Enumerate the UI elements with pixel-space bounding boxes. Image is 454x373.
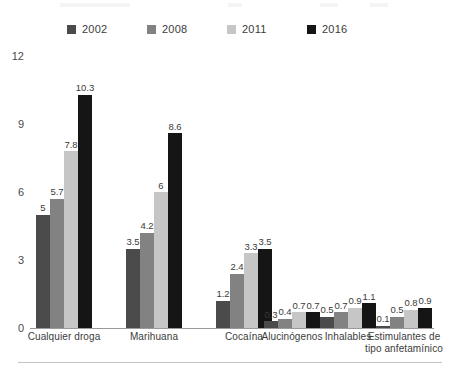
bar-2002[interactable]: 1.2 bbox=[216, 301, 230, 328]
scan-artifact bbox=[320, 3, 338, 7]
bar-value-label: 0.8 bbox=[404, 298, 417, 308]
bar-value-label: 6 bbox=[158, 181, 163, 191]
bar-2011[interactable]: 0.8 bbox=[404, 310, 418, 328]
bar-value-label: 0.5 bbox=[390, 305, 403, 315]
bar-value-label: 0.7 bbox=[306, 301, 319, 311]
legend-item-2011[interactable]: 2011 bbox=[227, 24, 307, 35]
legend-item-2016[interactable]: 2016 bbox=[307, 24, 387, 35]
bar-value-label: 10.3 bbox=[76, 83, 95, 93]
legend-item-label: 2016 bbox=[322, 24, 347, 35]
legend-swatch-icon bbox=[227, 25, 236, 34]
legend-item-2002[interactable]: 2002 bbox=[67, 24, 147, 35]
bar-value-label: 1.1 bbox=[362, 292, 375, 302]
bar-group-4: 0.30.40.70.7 bbox=[264, 56, 320, 328]
bar-2002[interactable]: 0.3 bbox=[264, 321, 278, 328]
bar-2002[interactable]: 5 bbox=[36, 215, 50, 328]
scan-artifact bbox=[60, 3, 130, 7]
category-label-line: Estimulantes de bbox=[323, 331, 454, 343]
bar-2016[interactable]: 0.7 bbox=[306, 312, 320, 328]
y-axis: 129630 bbox=[0, 50, 28, 335]
bar-value-label: 3.5 bbox=[126, 237, 139, 247]
bar-2008[interactable]: 5.7 bbox=[50, 199, 64, 328]
bar-value-label: 0.1 bbox=[376, 314, 389, 324]
bars-layer: 55.77.810.33.54.268.61.22.43.33.50.30.40… bbox=[30, 56, 440, 328]
legend-swatch-icon bbox=[67, 25, 76, 34]
legend-item-label: 2008 bbox=[162, 24, 187, 35]
bar-value-label: 0.7 bbox=[292, 301, 305, 311]
scan-artifact bbox=[370, 3, 388, 7]
bar-2011[interactable]: 0.9 bbox=[348, 308, 362, 328]
bar-value-label: 7.8 bbox=[64, 140, 77, 150]
bar-2008[interactable]: 2.4 bbox=[230, 274, 244, 328]
bar-2016[interactable]: 8.6 bbox=[168, 133, 182, 328]
bar-2011[interactable]: 6 bbox=[154, 192, 168, 328]
category-label-2: Marihuana bbox=[109, 331, 199, 343]
legend-item-label: 2011 bbox=[242, 24, 266, 35]
bar-2008[interactable]: 4.2 bbox=[140, 233, 154, 328]
y-tick-label: 12 bbox=[12, 51, 24, 62]
legend-item-2008[interactable]: 2008 bbox=[147, 24, 227, 35]
footer-rule bbox=[18, 362, 442, 363]
category-label-line: Cualquier droga bbox=[19, 331, 109, 343]
bar-2016[interactable]: 0.9 bbox=[418, 308, 432, 328]
category-label-1: Cualquier droga bbox=[19, 331, 109, 343]
bar-value-label: 3.3 bbox=[244, 242, 257, 252]
bar-value-label: 5 bbox=[40, 203, 45, 213]
y-tick-label: 6 bbox=[18, 187, 24, 198]
scan-artifact bbox=[228, 3, 242, 7]
bar-value-label: 0.9 bbox=[348, 296, 361, 306]
category-label-line: Marihuana bbox=[109, 331, 199, 343]
bar-2008[interactable]: 0.4 bbox=[278, 319, 292, 328]
x-axis-category-labels: Cualquier drogaMarihuanaCocaínaAlucinóge… bbox=[30, 331, 440, 365]
bar-value-label: 4.2 bbox=[140, 221, 153, 231]
bar-2016[interactable]: 1.1 bbox=[362, 303, 376, 328]
bar-2011[interactable]: 7.8 bbox=[64, 151, 78, 328]
bar-group-2: 3.54.268.6 bbox=[126, 56, 182, 328]
legend-swatch-icon bbox=[307, 25, 316, 34]
bar-2008[interactable]: 0.7 bbox=[334, 312, 348, 328]
bar-value-label: 0.7 bbox=[334, 301, 347, 311]
bar-group-5: 0.50.70.91.1 bbox=[320, 56, 376, 328]
bar-2002[interactable]: 0.5 bbox=[320, 317, 334, 328]
bar-value-label: 0.9 bbox=[418, 296, 431, 306]
bar-2002[interactable]: 3.5 bbox=[126, 249, 140, 328]
bar-value-label: 8.6 bbox=[168, 122, 181, 132]
bar-2002[interactable]: 0.1 bbox=[376, 326, 390, 328]
bar-chart-figure: 2002200820112016 129630 55.77.810.33.54.… bbox=[0, 0, 454, 373]
bar-2011[interactable]: 0.7 bbox=[292, 312, 306, 328]
bar-value-label: 0.3 bbox=[264, 310, 277, 320]
x-axis-baseline bbox=[30, 328, 434, 329]
bar-value-label: 5.7 bbox=[50, 187, 63, 197]
y-tick-label: 3 bbox=[18, 255, 24, 266]
bar-2016[interactable]: 10.3 bbox=[78, 95, 92, 328]
legend-swatch-icon bbox=[147, 25, 156, 34]
bar-2011[interactable]: 3.3 bbox=[244, 253, 258, 328]
bar-value-label: 1.2 bbox=[216, 289, 229, 299]
bar-2008[interactable]: 0.5 bbox=[390, 317, 404, 328]
bar-value-label: 2.4 bbox=[230, 262, 243, 272]
legend-item-label: 2002 bbox=[82, 24, 107, 35]
y-tick-label: 9 bbox=[18, 119, 24, 130]
chart-legend: 2002200820112016 bbox=[0, 20, 454, 38]
bar-value-label: 0.4 bbox=[278, 307, 291, 317]
bar-group-1: 55.77.810.3 bbox=[36, 56, 92, 328]
category-label-line: tipo anfetamínico bbox=[323, 343, 454, 355]
category-label-6: Estimulantes detipo anfetamínico bbox=[323, 331, 454, 354]
bar-value-label: 0.5 bbox=[320, 305, 333, 315]
bar-group-6: 0.10.50.80.9 bbox=[376, 56, 432, 328]
